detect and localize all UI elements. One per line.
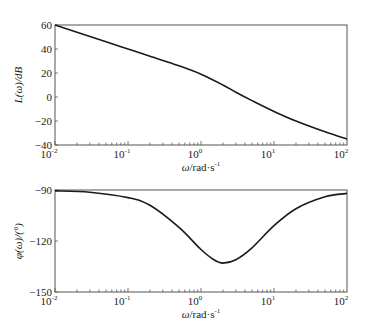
x-tick-label: 100 <box>188 294 203 307</box>
x-tick-label: 10-1 <box>114 294 131 307</box>
phase-curve <box>55 191 347 263</box>
x-tick-label: 101 <box>261 294 276 307</box>
y-tick-label: 60 <box>41 19 53 31</box>
y-axis-label: L(ω)/dB <box>12 66 25 104</box>
y-tick-label: −90 <box>35 184 53 196</box>
x-tick-label: 100 <box>188 147 203 160</box>
x-tick-label: 10-1 <box>114 147 131 160</box>
plot-frame <box>55 25 347 145</box>
phase-plot: 10-210-1100101102−90−120−150φ(ω)/(°)ω/ra… <box>12 184 349 320</box>
magnitude-plot: 10-210-11001011026040200−20−40L(ω)/dBω/r… <box>12 19 349 173</box>
x-tick-label: 102 <box>334 147 349 160</box>
y-tick-label: −40 <box>35 139 53 151</box>
y-tick-label: 40 <box>41 43 53 55</box>
x-axis-label: ω/rad·s-1 <box>182 307 221 320</box>
x-tick-label: 101 <box>261 147 276 160</box>
bode-plot: 10-210-11001011026040200−20−40L(ω)/dBω/r… <box>0 0 367 324</box>
y-tick-label: −120 <box>29 235 52 247</box>
y-tick-label: 20 <box>41 67 53 79</box>
y-tick-label: −150 <box>29 286 52 298</box>
y-axis-label: φ(ω)/(°) <box>12 223 25 259</box>
magnitude-curve <box>55 25 347 139</box>
x-tick-label: 102 <box>334 294 349 307</box>
y-tick-label: 0 <box>47 91 53 103</box>
y-tick-label: −20 <box>35 115 53 127</box>
x-axis-label: ω/rad·s-1 <box>182 160 221 173</box>
